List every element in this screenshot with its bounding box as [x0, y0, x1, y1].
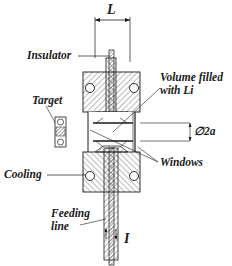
- cooling-channel-icon: [86, 84, 95, 93]
- cooling-channel-icon: [130, 172, 139, 181]
- insulator-callout: Insulator: [26, 49, 110, 61]
- feeding-line-label-line1: Feeding: [50, 207, 90, 220]
- lithium-lens-diagram: L Insulator: [0, 0, 232, 266]
- target: Target: [32, 94, 66, 147]
- diameter-dimension: ∅2a: [140, 123, 216, 141]
- cooling-label: Cooling: [4, 168, 42, 181]
- lower-body: [83, 146, 140, 265]
- diameter-label: ∅2a: [194, 125, 216, 137]
- length-label: L: [106, 2, 116, 17]
- cooling-channel-icon: [86, 172, 95, 181]
- feeding-line-label-line2: line: [51, 220, 69, 232]
- cooling-channel-icon: [130, 84, 139, 93]
- volume-label-line1: Volume filled: [160, 71, 223, 84]
- insulator-label: Insulator: [26, 49, 72, 61]
- upper-body: [83, 50, 140, 118]
- volume-label-line2: with Li: [160, 84, 194, 96]
- target-label: Target: [32, 94, 63, 107]
- current-label: I: [123, 231, 130, 246]
- cooling-callout: Cooling: [4, 168, 85, 181]
- feeding-line-callout: Feeding line: [50, 207, 106, 232]
- windows-label: Windows: [160, 156, 204, 168]
